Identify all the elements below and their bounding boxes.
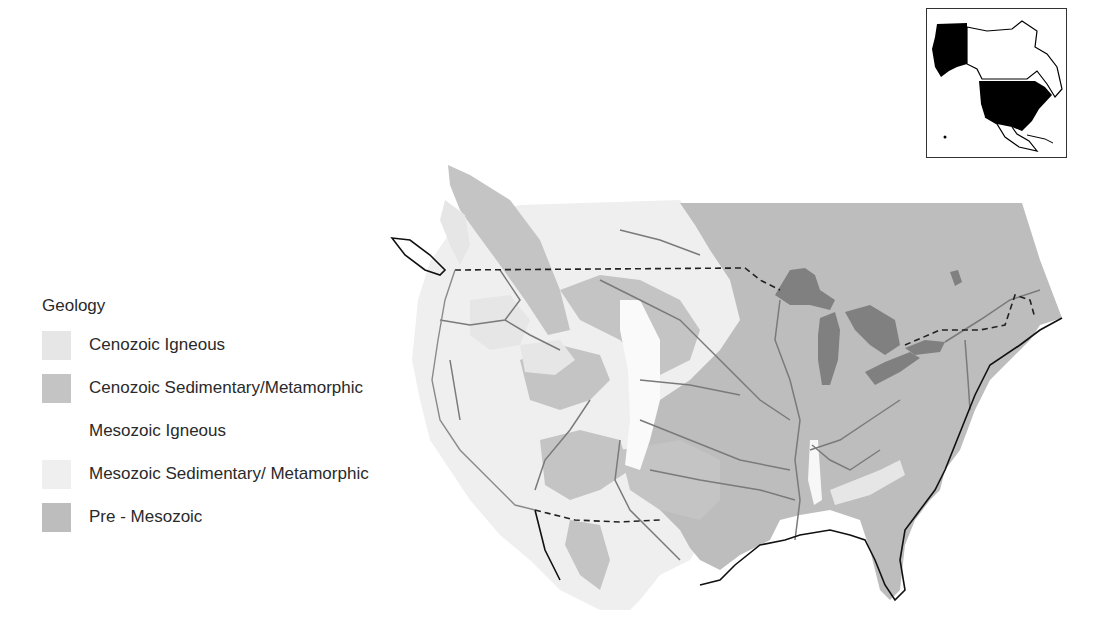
alaska-shape	[932, 23, 967, 77]
geologic-units	[412, 165, 1062, 610]
caribbean-outline	[1027, 135, 1053, 143]
usa-shape	[979, 81, 1052, 131]
inset-locator-map	[926, 8, 1067, 158]
hawaii-dot	[944, 136, 947, 139]
north-america-outline	[927, 9, 1065, 156]
